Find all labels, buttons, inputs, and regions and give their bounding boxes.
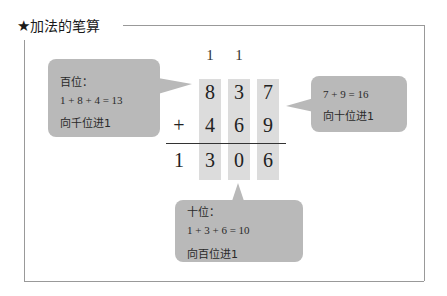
- addend2-hundreds: 4: [199, 114, 221, 136]
- ones-callout-equation: 7 + 9 = 16: [323, 88, 368, 100]
- section-title: ★加法的笔算: [17, 15, 100, 35]
- hundreds-bubble-tail: [158, 78, 192, 94]
- sum-ones: 6: [257, 149, 279, 171]
- frame-border-top: [123, 25, 424, 26]
- hundreds-callout-equation: 1 + 8 + 4 = 13: [60, 94, 123, 106]
- section-title-text: 加法的笔算: [30, 18, 100, 34]
- tens-callout-label: 十位：: [187, 203, 220, 219]
- addend1-tens: 3: [228, 81, 250, 103]
- sum-line: [166, 143, 286, 144]
- tens-bubble-tail: [232, 183, 244, 201]
- hundreds-callout-note: 向千位进1: [60, 114, 111, 130]
- tens-callout-equation: 1 + 3 + 6 = 10: [187, 224, 250, 236]
- frame-border-left: [24, 40, 25, 281]
- frame-border-bottom: [24, 281, 424, 282]
- tens-callout-note: 向百位进1: [187, 245, 238, 261]
- star-icon: ★: [17, 17, 30, 35]
- hundreds-callout: 百位： 1 + 8 + 4 = 13 向千位进1: [48, 59, 160, 137]
- sum-thousands: 1: [168, 149, 190, 171]
- hundreds-callout-label: 百位：: [60, 73, 93, 89]
- ones-callout-note: 向十位进1: [323, 107, 374, 123]
- addend2-ones: 9: [257, 114, 279, 136]
- ones-bubble-tail: [286, 98, 314, 112]
- plus-operator: +: [168, 114, 190, 136]
- addend1-ones: 7: [257, 81, 279, 103]
- ones-callout: 7 + 9 = 16 向十位进1: [311, 76, 407, 132]
- carry-digit-tens: 1: [228, 46, 250, 64]
- sum-hundreds: 3: [199, 149, 221, 171]
- addend1-hundreds: 8: [199, 81, 221, 103]
- sum-tens: 0: [228, 149, 250, 171]
- frame-border-right: [424, 25, 425, 281]
- addend2-tens: 6: [228, 114, 250, 136]
- tens-callout: 十位： 1 + 3 + 6 = 10 向百位进1: [175, 200, 303, 262]
- carry-digit-hundreds: 1: [199, 46, 221, 64]
